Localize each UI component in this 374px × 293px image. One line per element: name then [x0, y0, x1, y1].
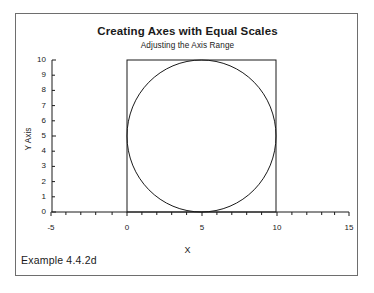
y-tick-marks — [52, 60, 56, 212]
xtick-label-15: 15 — [334, 224, 364, 232]
ytick-label-8: 8 — [20, 86, 46, 94]
plot-canvas — [16, 14, 359, 277]
x-tick-marks — [51, 212, 349, 216]
ytick-label-0: 0 — [20, 208, 46, 216]
xtick-label-5: 5 — [187, 224, 217, 232]
ytick-label-9: 9 — [20, 71, 46, 79]
figure-frame: Creating Axes with Equal Scales Adjustin… — [15, 13, 358, 276]
xtick-label-0: 0 — [112, 224, 142, 232]
xtick-label--5: -5 — [36, 224, 66, 232]
ytick-label-1: 1 — [20, 193, 46, 201]
circle-path — [127, 60, 276, 212]
ytick-label-2: 2 — [20, 178, 46, 186]
ytick-label-10: 10 — [20, 56, 46, 64]
xtick-label-10: 10 — [262, 224, 292, 232]
figure-caption: Example 4.4.2d — [21, 254, 97, 266]
square-path — [127, 60, 276, 212]
ytick-label-7: 7 — [20, 102, 46, 110]
y-axis-label: Y Axis — [23, 114, 33, 164]
